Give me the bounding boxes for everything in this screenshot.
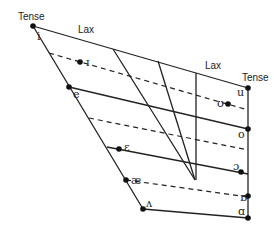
dot-i: [30, 23, 36, 29]
label-tense-right: Tense: [242, 72, 269, 83]
vowel-turned-a: ɒ: [240, 191, 247, 204]
dot-u: [245, 85, 251, 91]
vowel-o: o: [238, 128, 245, 141]
vowel-u: u: [237, 86, 244, 99]
vowel-small-cap-i: ɪ: [86, 56, 90, 69]
dot-small-cap-i: [77, 59, 83, 65]
vowel-epsilon: ɛ: [124, 141, 130, 154]
label-lax-right: Lax: [205, 60, 221, 71]
label-lax-left: Lax: [78, 24, 94, 35]
vowel-diagram: Tense Lax Lax Tense i ɪ e ɛ æ ʌ u ʊ o ɔ …: [0, 0, 278, 236]
vowel-i: i: [37, 30, 41, 43]
dot-epsilon: [116, 146, 122, 152]
vowel-e: e: [73, 88, 80, 101]
dot-e: [66, 84, 72, 90]
dot-ae: [123, 177, 129, 183]
vowel-ae: æ: [131, 174, 141, 187]
dashed-line-ae-turned-a: [126, 180, 248, 197]
vowel-open-o: ɔ: [233, 160, 239, 173]
dot-upsilon: [225, 101, 231, 107]
vowel-script-a: ɑ: [238, 205, 245, 218]
dot-wedge: [140, 206, 146, 212]
vowel-wedge: ʌ: [145, 197, 153, 210]
dot-script-a: [245, 215, 251, 221]
label-tense-left: Tense: [18, 11, 45, 22]
vowel-upsilon: ʊ: [217, 97, 224, 110]
dot-o: [245, 126, 251, 132]
bottom-edge: [143, 209, 248, 218]
